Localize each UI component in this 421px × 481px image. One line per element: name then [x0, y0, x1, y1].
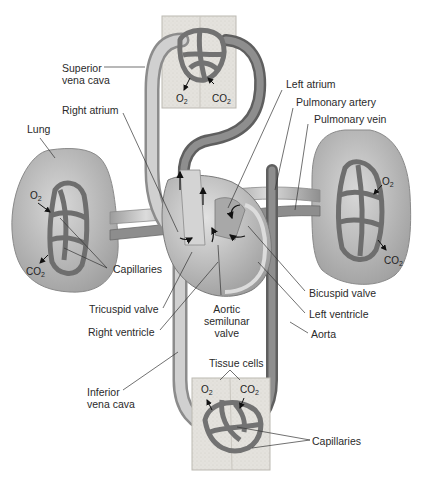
gas-symbol: O	[201, 384, 209, 395]
gas-o2-tissue: O2	[201, 384, 213, 398]
label-superior-vena-cava: Superior vena cava	[62, 62, 110, 86]
label-left-ventricle: Left ventricle	[309, 308, 369, 320]
label-line: Aortic	[204, 303, 250, 315]
gas-symbol: CO	[212, 93, 227, 104]
gas-subscript: 2	[209, 389, 213, 396]
gas-o2-left-lung: O2	[30, 190, 42, 204]
gas-symbol: O	[30, 190, 38, 201]
label-pulmonary-vein: Pulmonary vein	[314, 113, 386, 125]
label-tissue-cells: Tissue cells	[209, 357, 263, 369]
label-line: vena cava	[62, 74, 110, 86]
gas-subscript: 2	[255, 389, 259, 396]
label-line: semilunar	[204, 315, 250, 327]
gas-subscript: 2	[227, 98, 231, 105]
gas-symbol: O	[176, 93, 184, 104]
gas-symbol: CO	[240, 384, 255, 395]
gas-subscript: 2	[184, 98, 188, 105]
label-lung: Lung	[27, 123, 50, 135]
gas-o2-upper: O2	[176, 93, 188, 107]
label-line: vena cava	[87, 398, 135, 410]
gas-subscript: 2	[38, 195, 42, 202]
gas-o2-right-lung: O2	[382, 176, 394, 190]
label-bicuspid-valve: Bicuspid valve	[309, 287, 376, 299]
label-inferior-vena-cava: Inferior vena cava	[87, 386, 135, 410]
label-capillaries-lung: Capillaries	[113, 263, 162, 275]
gas-subscript: 2	[41, 271, 45, 278]
label-line: Inferior	[87, 386, 135, 398]
gas-subscript: 2	[390, 181, 394, 188]
gas-symbol: CO	[26, 266, 41, 277]
label-aortic-semilunar-valve: Aortic semilunar valve	[204, 303, 250, 339]
gas-co2-left-lung: CO2	[26, 266, 45, 280]
gas-symbol: CO	[384, 255, 399, 266]
gas-co2-right-lung: CO2	[384, 255, 403, 269]
label-line: valve	[204, 327, 250, 339]
label-line: Superior	[62, 62, 110, 74]
label-capillaries-tissue: Capillaries	[312, 435, 361, 447]
gas-symbol: O	[382, 176, 390, 187]
label-pulmonary-artery: Pulmonary artery	[296, 96, 376, 108]
label-right-atrium: Right atrium	[62, 104, 119, 116]
label-tricuspid-valve: Tricuspid valve	[89, 303, 159, 315]
label-left-atrium: Left atrium	[286, 78, 336, 90]
gas-co2-upper: CO2	[212, 93, 231, 107]
gas-co2-tissue: CO2	[240, 384, 259, 398]
label-aorta: Aorta	[311, 328, 336, 340]
gas-subscript: 2	[399, 260, 403, 267]
label-right-ventricle: Right ventricle	[88, 326, 155, 338]
